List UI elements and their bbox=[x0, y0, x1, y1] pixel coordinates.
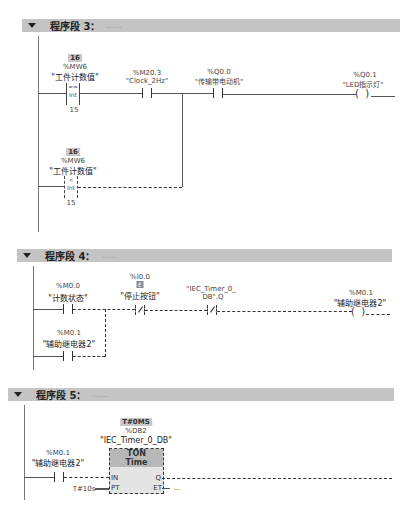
cmp-lt-type: Int bbox=[64, 184, 78, 192]
power-rail-left-3 bbox=[38, 36, 39, 232]
count-state-name: "计数状态" bbox=[48, 292, 87, 303]
timer-status-wrap: T#0MS bbox=[120, 418, 152, 426]
cmp-lt-op: < bbox=[64, 176, 78, 184]
dashed-wire bbox=[217, 311, 352, 312]
wire bbox=[33, 356, 63, 357]
pin-in[interactable]: IN bbox=[111, 474, 118, 482]
branch-wire bbox=[105, 309, 106, 357]
timer-q-nc-contact[interactable] bbox=[207, 305, 217, 315]
timer-header: TON Time bbox=[110, 449, 163, 467]
timer-db: %DB2 bbox=[125, 427, 146, 435]
ton-timer-block[interactable]: TON Time IN PT Q ET bbox=[109, 448, 164, 494]
dashed-wire bbox=[73, 309, 135, 310]
network-5-comment[interactable]: ...... bbox=[92, 390, 107, 399]
wire bbox=[80, 93, 142, 94]
pin-et[interactable]: ET bbox=[153, 484, 162, 492]
network-3-header[interactable]: 程序段 3： ...... bbox=[22, 19, 400, 32]
cmp-eq-name: "工件计数值" bbox=[51, 71, 98, 82]
relay-parallel-address: %M0.1 bbox=[57, 329, 81, 337]
timer-q-name-1: "IEC_Timer_0_ bbox=[186, 285, 236, 293]
relay-parallel-contact[interactable] bbox=[63, 351, 73, 361]
timer-type: TON bbox=[110, 449, 163, 458]
relay-address: %M0.1 bbox=[46, 449, 70, 457]
timer-status: T#0MS bbox=[120, 418, 152, 426]
compare-lt-instruction[interactable]: < Int bbox=[64, 176, 78, 198]
count-state-address: %M0.0 bbox=[56, 282, 80, 290]
network-3-comment[interactable]: ...... bbox=[106, 21, 121, 30]
motor-address: %Q0.0 bbox=[207, 68, 230, 76]
dashed-wire bbox=[64, 477, 109, 478]
dashed-wire bbox=[366, 314, 390, 315]
relay-parallel-name: "辅助继电器2" bbox=[43, 338, 95, 349]
q-output-dashed-wire bbox=[162, 478, 392, 479]
cmp-eq-operand2: 15 bbox=[70, 106, 79, 114]
network-5-header[interactable]: 程序段 5： ...... bbox=[8, 388, 394, 401]
cmp-lt-operand2: 15 bbox=[67, 199, 76, 207]
collapse-triangle-icon[interactable] bbox=[14, 392, 22, 397]
branch-wire bbox=[182, 93, 183, 187]
pt-value[interactable]: T#10s bbox=[73, 485, 96, 493]
relay-name: "辅助继电器2" bbox=[32, 457, 84, 468]
collapse-triangle-icon[interactable] bbox=[23, 253, 31, 258]
et-value[interactable]: ... bbox=[174, 484, 181, 492]
cmp-lt-name: "工件计数值" bbox=[49, 165, 96, 176]
wire bbox=[162, 488, 170, 489]
pin-pt[interactable]: PT bbox=[111, 484, 120, 492]
power-rail-left-5 bbox=[24, 405, 25, 500]
network-4-header[interactable]: 程序段 4： ...... bbox=[17, 249, 392, 262]
stop-btn-address: %I0.0 bbox=[130, 273, 150, 281]
relay-coil-address: %M0.1 bbox=[349, 289, 373, 297]
led-address: %Q0.1 bbox=[353, 71, 376, 79]
power-rail-left-4 bbox=[33, 266, 34, 370]
cmp-eq-type: Int bbox=[66, 91, 80, 99]
dashed-wire bbox=[145, 310, 207, 311]
collapse-triangle-icon[interactable] bbox=[28, 23, 36, 28]
stop-btn-badge: E bbox=[137, 281, 144, 289]
clock-2hz-contact[interactable] bbox=[142, 88, 152, 98]
clock-address: %M20.3 bbox=[133, 69, 161, 77]
dashed-wire bbox=[78, 187, 182, 188]
timer-q-name-2: DB".Q bbox=[202, 293, 223, 301]
stop-button-nc-contact[interactable] bbox=[135, 305, 145, 315]
wire bbox=[223, 94, 356, 95]
count-state-contact[interactable] bbox=[63, 304, 73, 314]
relay-contact[interactable] bbox=[54, 472, 64, 482]
wire bbox=[371, 96, 395, 97]
network-4-comment[interactable]: ...... bbox=[101, 251, 116, 260]
cmp-eq-value: 16 bbox=[68, 54, 82, 62]
cmp-eq-address: %MW6 bbox=[63, 63, 87, 71]
network-3-title: 程序段 3： bbox=[50, 18, 100, 33]
network-4-title: 程序段 4： bbox=[45, 248, 95, 263]
motor-name: "传输带电动机" bbox=[195, 76, 243, 86]
timer-subtype: Time bbox=[110, 458, 163, 467]
cmp-eq-op: == bbox=[66, 83, 80, 91]
wire bbox=[38, 93, 66, 94]
clock-name: "Clock_2Hz" bbox=[126, 77, 168, 85]
dashed-wire bbox=[73, 356, 105, 357]
wire bbox=[38, 186, 64, 187]
wire bbox=[33, 309, 63, 310]
wire bbox=[24, 477, 54, 478]
compare-eq-instruction[interactable]: == Int bbox=[66, 83, 80, 105]
stop-btn-name: "停止按钮" bbox=[120, 290, 159, 301]
input-badge-icon: E bbox=[137, 281, 144, 288]
cmp-lt-value: 16 bbox=[66, 148, 80, 156]
led-output-coil[interactable]: ( ) bbox=[355, 89, 369, 99]
network-5-title: 程序段 5： bbox=[36, 387, 86, 402]
wire bbox=[95, 488, 109, 490]
timer-instance: "IEC_Timer_0_DB" bbox=[100, 436, 172, 445]
pin-q[interactable]: Q bbox=[155, 474, 161, 482]
motor-contact[interactable] bbox=[213, 88, 223, 98]
relay-output-coil[interactable]: ( ) bbox=[351, 307, 365, 317]
cmp-lt-address: %MW6 bbox=[61, 157, 85, 165]
